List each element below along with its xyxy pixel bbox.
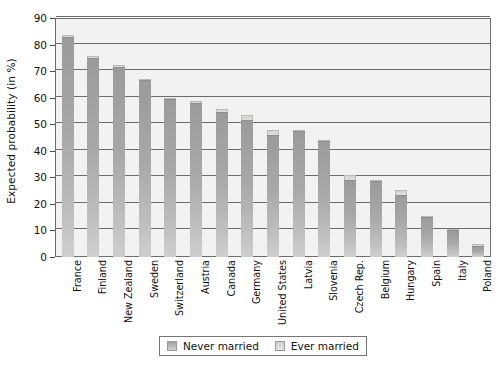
x-tick-label-text: United States bbox=[277, 260, 288, 327]
y-tick-label-50: 50 bbox=[13, 119, 47, 130]
x-tick-label-text: Sweden bbox=[149, 260, 160, 300]
x-tick-label-text: Belgium bbox=[380, 260, 391, 301]
x-tick-label-text: Canada bbox=[226, 260, 237, 299]
gridline-40 bbox=[56, 149, 490, 150]
legend-item-ever-married: Ever married bbox=[275, 340, 359, 352]
gridlines-layer bbox=[56, 19, 490, 256]
y-tick-label-20: 20 bbox=[13, 199, 47, 210]
x-tick-label-text: Slovenia bbox=[328, 260, 339, 303]
y-tick-label-80: 80 bbox=[13, 39, 47, 50]
y-tick-label-40: 40 bbox=[13, 146, 47, 157]
legend-label-ever-married: Ever married bbox=[291, 340, 359, 352]
gridline-90 bbox=[56, 16, 490, 17]
x-axis-labels: FranceFinlandNew ZealandSwedenSwitzerlan… bbox=[55, 258, 491, 328]
x-tick-label-text: New Zealand bbox=[123, 260, 134, 325]
y-tick-label-0: 0 bbox=[13, 252, 47, 263]
y-tick-label-30: 30 bbox=[13, 172, 47, 183]
chart-legend: Never married Ever married bbox=[159, 336, 367, 356]
gridline-20 bbox=[56, 202, 490, 203]
x-tick-label-text: Hungary bbox=[405, 260, 416, 303]
x-tick-label-text: Czech Rep. bbox=[354, 260, 365, 315]
y-tick-label-10: 10 bbox=[13, 225, 47, 236]
x-tick-label-text: Spain bbox=[431, 260, 442, 289]
chart-page: Expected probability (in %) 010203040506… bbox=[0, 0, 503, 365]
x-tick-label-text: Italy bbox=[457, 260, 468, 283]
gridline-60 bbox=[56, 96, 490, 97]
y-tick-label-90: 90 bbox=[13, 13, 47, 24]
x-tick-label-text: Latvia bbox=[303, 260, 314, 291]
gridline-80 bbox=[56, 43, 490, 44]
gridline-50 bbox=[56, 122, 490, 123]
legend-label-never-married: Never married bbox=[183, 340, 259, 352]
gridline-70 bbox=[56, 69, 490, 70]
plot-area bbox=[55, 18, 491, 257]
gridline-30 bbox=[56, 175, 490, 176]
gridline-10 bbox=[56, 228, 490, 229]
y-tick-label-70: 70 bbox=[13, 66, 47, 77]
legend-item-never-married: Never married bbox=[167, 340, 259, 352]
y-axis-ticks: 0102030405060708090 bbox=[14, 18, 55, 257]
x-tick-label-text: Austria bbox=[200, 260, 211, 296]
x-tick-label-text: Germany bbox=[251, 260, 262, 306]
y-tick-label-60: 60 bbox=[13, 92, 47, 103]
x-tick-label-text: Finland bbox=[97, 260, 108, 296]
x-tick-label-text: Poland bbox=[482, 260, 493, 294]
ever-married-swatch-icon bbox=[275, 341, 285, 351]
x-tick-label-text: Switzerland bbox=[174, 260, 185, 318]
x-tick-label-text: France bbox=[72, 260, 83, 294]
never-married-swatch-icon bbox=[167, 341, 177, 351]
